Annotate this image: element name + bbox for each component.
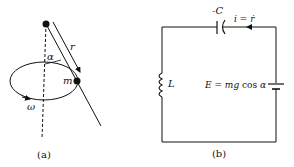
label-r: r [70, 41, 76, 52]
label-m: m [63, 75, 72, 86]
caption-b: (b) [212, 148, 226, 159]
caption-a: (a) [37, 149, 51, 160]
figure-b: -C i = ṙ E = mg cos α L (b) [159, 5, 284, 159]
label-source: E = mg cos α [204, 80, 266, 90]
r-arrow [53, 22, 80, 72]
current-arrow [246, 24, 252, 30]
label-alpha: α [47, 51, 54, 62]
label-current: i = ṙ [234, 14, 255, 24]
rod [46, 24, 101, 126]
inductor-coil [159, 73, 162, 97]
label-inductor: L [167, 78, 175, 89]
figure-a: r α m ω (a) [10, 21, 101, 161]
label-omega: ω [27, 101, 35, 112]
mass-point [74, 78, 81, 85]
diagram-canvas: r α m ω (a) -C i = ṙ E = mg cos α [0, 0, 294, 167]
label-capacitor: -C [212, 5, 223, 16]
vertical-axis [42, 24, 46, 139]
